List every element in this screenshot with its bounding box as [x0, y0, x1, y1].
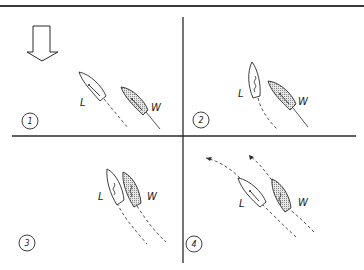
wake-line [293, 108, 308, 127]
wake-line [258, 98, 278, 130]
boat-label-w: W [151, 102, 162, 113]
boat-label-l: L [239, 198, 245, 209]
boat-label-w: W [298, 197, 309, 208]
boat-leeward [107, 169, 124, 205]
course-arrow-icon [249, 155, 254, 160]
panel-2: L W 2 [193, 62, 309, 130]
boat-label-w: W [298, 96, 309, 107]
panel-number: 4 [191, 240, 196, 249]
panel-number: 2 [198, 116, 203, 125]
course-arrow-icon [206, 157, 212, 161]
boat-windward [268, 81, 296, 110]
boat-windward [123, 172, 141, 207]
wake-line [117, 203, 147, 244]
sailing-diagram: L W 1 L W 2 L [0, 0, 364, 270]
boat-leeward [249, 62, 260, 98]
wake-line [146, 112, 160, 129]
boat-label-l: L [238, 88, 244, 99]
panel-4: L W 4 [186, 155, 314, 252]
panel-3: L W 3 [19, 169, 166, 251]
wind-arrow-icon [27, 26, 58, 61]
boat-label-l: L [80, 97, 86, 108]
panel-number: 1 [27, 117, 32, 126]
wake-line [137, 206, 166, 242]
panel-number: 3 [24, 239, 29, 248]
boat-label-l: L [98, 191, 104, 202]
boat-windward [121, 87, 148, 115]
panel-1: L W 1 [22, 72, 162, 129]
boat-label-w: W [147, 191, 158, 202]
wake-line [104, 99, 128, 128]
boat-windward [272, 179, 291, 212]
